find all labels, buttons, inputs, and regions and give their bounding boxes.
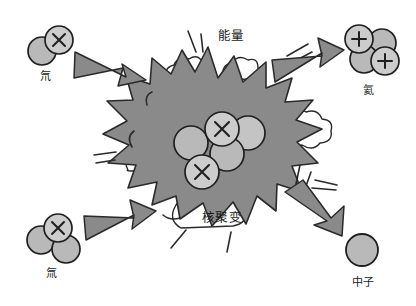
neutron-label: 中子 <box>352 276 375 289</box>
fusion-core-label: 核聚变 <box>202 210 243 225</box>
core-proton-1 <box>205 112 239 146</box>
helium-label: 氦 <box>363 83 375 97</box>
fusion-diagram-svg: 氘 氚 氦 中子 能量 核聚变 <box>0 0 416 306</box>
particle-neutron: 中子 <box>346 234 378 289</box>
core-proton-2 <box>185 155 219 189</box>
tritium-label: 氚 <box>46 266 58 280</box>
deuterium-label: 氘 <box>40 69 52 83</box>
energy-label: 能量 <box>218 28 245 43</box>
neutron-circle <box>346 234 378 266</box>
deuterium-proton <box>45 26 73 54</box>
fusion-diagram-canvas: 氘 氚 氦 中子 能量 核聚变 <box>0 0 416 306</box>
helium-proton-1 <box>345 25 373 53</box>
tritium-proton <box>44 214 72 242</box>
helium-proton-2 <box>371 47 399 75</box>
